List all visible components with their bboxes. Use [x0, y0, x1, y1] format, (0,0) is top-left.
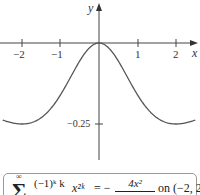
fraction-bar [115, 191, 155, 192]
sum-upper-limit: ∞ [16, 172, 22, 181]
x-tick-label: −2 [13, 49, 25, 60]
y-axis-label: y [88, 2, 93, 14]
y-tick-label: −0.25 [67, 119, 90, 129]
plot-area [0, 0, 200, 170]
x-tick-label: −1 [51, 49, 63, 60]
x-tick-label: 1 [135, 49, 141, 60]
term-numerator: (−1)ᵏ k [34, 177, 65, 189]
formula-box: Σ ∞ (−1)ᵏ k x²ᵏ = − 4x² on (−2, 2) [3, 173, 197, 195]
term-power: x²ᵏ [72, 181, 84, 195]
x-axis-label: x [192, 47, 197, 59]
y-axis-arrow-icon [96, 3, 102, 11]
result-numerator: 4x² [117, 177, 153, 189]
x-tick-label: 2 [173, 49, 179, 60]
interval-text: on (−2, 2) [158, 181, 200, 195]
equals-sign: = − [94, 181, 111, 195]
